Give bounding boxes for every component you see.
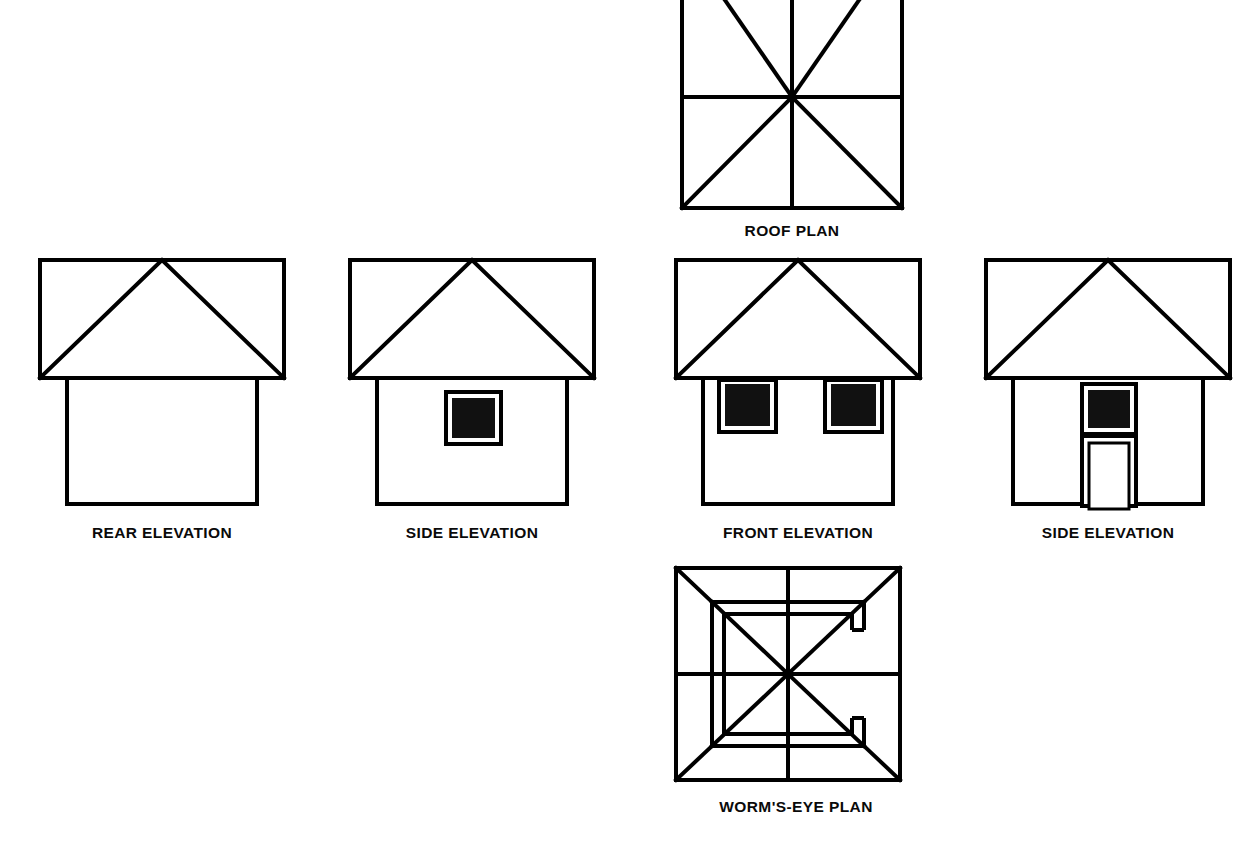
view-side-elevation-right: SIDE ELEVATION [972,252,1244,518]
hip-roof-plan-icon [664,0,920,222]
window-opening [1082,384,1136,434]
view-worms-eye-plan: WORM'S-EYE PLAN [660,558,932,798]
view-label-front-elevation: FRONT ELEVATION [662,524,934,542]
door-opening [1082,436,1136,509]
window-opening-left [719,380,776,432]
view-side-elevation-left: SIDE ELEVATION [336,252,608,518]
house-elevation-icon [26,252,298,518]
view-label-side-elevation-left: SIDE ELEVATION [336,524,608,542]
view-label-side-elevation-right: SIDE ELEVATION [972,524,1244,542]
view-label-roof-plan: ROOF PLAN [664,222,920,240]
drawing-sheet: ROOF PLAN REAR ELEVATION [0,0,1254,859]
window-opening-right [825,380,882,432]
window-opening [446,392,501,444]
house-elevation-icon [336,252,608,518]
view-rear-elevation: REAR ELEVATION [26,252,298,518]
view-label-worms-eye-plan: WORM'S-EYE PLAN [660,798,932,816]
view-front-elevation: FRONT ELEVATION [662,252,934,518]
view-label-rear-elevation: REAR ELEVATION [26,524,298,542]
house-elevation-icon [972,252,1244,518]
view-roof-plan: ROOF PLAN [664,0,920,222]
house-elevation-icon [662,252,934,518]
worms-eye-plan-icon [660,558,932,798]
